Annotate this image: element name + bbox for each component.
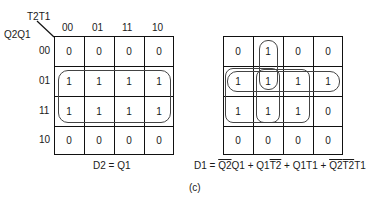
cell: 0	[114, 36, 144, 66]
cell: 0	[223, 36, 253, 66]
plus: +	[318, 160, 329, 171]
grouping-loop-q1-t1	[256, 69, 310, 123]
row-label-01: 01	[39, 75, 50, 87]
term-q1: Q1	[232, 160, 245, 171]
plus: +	[281, 160, 292, 171]
cell: 0	[313, 96, 343, 126]
cell: 0	[313, 126, 343, 155]
row-label-00: 00	[39, 45, 50, 57]
term-q1t1: Q1T1	[293, 160, 318, 171]
term-q2-bar: Q2	[218, 160, 231, 171]
col-label-00: 00	[62, 22, 73, 34]
cell: 0	[283, 36, 313, 66]
cell: 0	[253, 126, 283, 155]
cell: 0	[283, 126, 313, 155]
row-variable-label: Q2Q1	[4, 29, 31, 41]
eq-prefix: D1 =	[194, 160, 218, 171]
term-q2-bar: Q2	[329, 160, 342, 171]
col-label-11: 11	[122, 22, 132, 34]
cell: 0	[144, 36, 174, 66]
diagonal-divider	[36, 20, 56, 38]
cell: 0	[223, 126, 253, 155]
col-label-01: 01	[92, 22, 103, 34]
cell: 0	[114, 126, 144, 155]
term-t1: T1	[354, 160, 366, 171]
col-label-10: 10	[152, 22, 163, 34]
cell: 0	[54, 36, 84, 66]
left-equation: D2 = Q1	[93, 160, 131, 171]
cell: 0	[144, 126, 174, 155]
term-t2-bar: T2	[342, 160, 354, 171]
plus: +	[245, 160, 256, 171]
cell: 0	[84, 126, 114, 155]
row-label-11: 11	[39, 105, 49, 117]
cell: 0	[84, 36, 114, 66]
cell: 0	[54, 126, 84, 155]
figure-caption: (c)	[189, 182, 201, 193]
grouping-loop-q1	[58, 70, 171, 123]
term-t2-bar: T2	[270, 160, 282, 171]
row-label-10: 10	[39, 134, 50, 146]
term-q1: Q1	[256, 160, 269, 171]
cell: 0	[313, 36, 343, 66]
right-equation: D1 = Q2Q1 + Q1T2 + Q1T1 + Q2T2T1	[194, 160, 366, 171]
